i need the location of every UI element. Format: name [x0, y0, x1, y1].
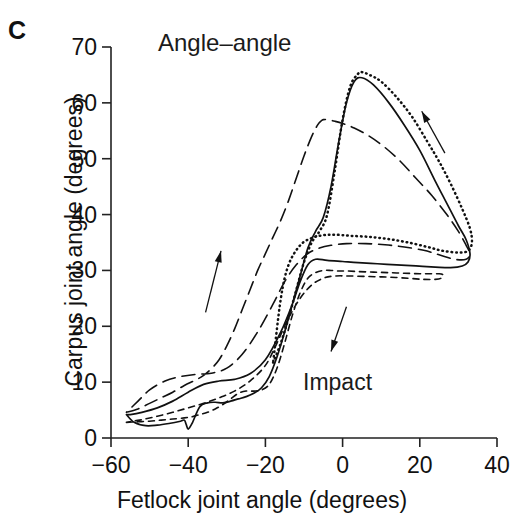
arrow-ascending-right-head [422, 111, 431, 123]
curve-solid [126, 78, 470, 430]
plot-canvas [0, 0, 524, 526]
arrow-impact-head [331, 339, 338, 351]
angle-angle-figure: C Angle–angle Impact Carpus joint angle … [0, 0, 524, 526]
data-curves [126, 72, 472, 429]
curve-dotted [273, 72, 472, 363]
curve-short-dash [126, 270, 443, 422]
direction-arrows [206, 111, 445, 351]
arrow-ascending-left-head [215, 251, 222, 263]
